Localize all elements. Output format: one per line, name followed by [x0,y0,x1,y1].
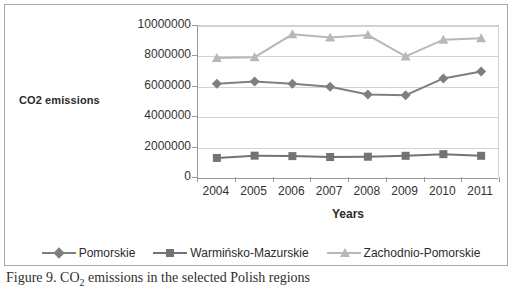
x-axis-ticks: 20042005200620072008200920102011 [197,177,499,207]
legend-swatch-icon [42,247,76,259]
legend-swatch-icon [153,247,187,259]
data-point-marker [402,152,410,160]
data-point-marker [213,154,221,162]
y-tick-mark [192,116,197,117]
data-point-marker [439,150,447,158]
legend-item-0[interactable]: Pomorskie [42,246,136,260]
data-point-marker [476,67,486,77]
series-lines [198,26,500,178]
figure-caption: Figure 9. CO2 emissions in the selected … [6,270,506,288]
chart-frame: CO2 emissions 02000000400000060000008000… [4,4,508,266]
data-point-marker [250,76,260,86]
legend-swatch-icon [327,247,361,259]
x-tick-label: 2007 [316,184,343,198]
y-tick-mark [192,86,197,87]
y-tick-label: 0 [95,169,191,183]
y-tick-mark [192,25,197,26]
series-line [217,34,481,58]
x-tick-mark [386,177,387,182]
legend-item-1[interactable]: Warmińsko-Mazurskie [153,246,308,260]
legend-label: Warmińsko-Mazurskie [190,246,308,260]
y-tick-mark [192,55,197,56]
x-tick-label: 2005 [240,184,267,198]
data-point-marker [438,73,448,83]
data-point-marker [288,152,296,160]
x-tick-mark [461,177,462,182]
data-point-marker [326,153,334,161]
y-tick-label: 6000000 [95,78,191,92]
x-tick-label: 2006 [278,184,305,198]
data-point-marker [364,153,372,161]
x-tick-mark [310,177,311,182]
y-tick-label: 4000000 [95,108,191,122]
caption-rest: emissions in the selected Polish regions [85,270,311,285]
x-tick-mark [197,177,198,182]
x-tick-mark [235,177,236,182]
y-axis-ticks: 0200000040000006000000800000010000000 [91,25,191,177]
x-tick-label: 2009 [391,184,418,198]
figure-container: CO2 emissions 02000000400000060000008000… [0,0,516,290]
x-tick-mark [273,177,274,182]
data-point-marker [251,152,259,160]
y-tick-label: 2000000 [95,139,191,153]
x-axis-title: Years [197,207,499,221]
data-point-marker [477,152,485,160]
y-tick-label: 10000000 [95,17,191,31]
x-tick-mark [424,177,425,182]
x-tick-mark [348,177,349,182]
x-tick-mark [499,177,500,182]
legend-item-2[interactable]: Zachodnio-Pomorskie [327,246,481,260]
data-point-marker [212,79,222,89]
data-point-marker [287,79,297,89]
x-tick-label: 2010 [429,184,456,198]
data-point-marker [401,90,411,100]
caption-prefix: Figure 9. CO [6,270,80,285]
legend-label: Pomorskie [79,246,136,260]
chart-legend: PomorskieWarmińsko-MazurskieZachodnio-Po… [15,241,507,265]
plot-area [197,25,499,177]
x-tick-label: 2004 [203,184,230,198]
y-tick-mark [192,147,197,148]
x-tick-label: 2008 [354,184,381,198]
data-point-marker [363,89,373,99]
y-tick-label: 8000000 [95,47,191,61]
data-point-marker [325,82,335,92]
y-tick-mark [192,177,197,178]
x-tick-label: 2011 [467,184,493,198]
legend-label: Zachodnio-Pomorskie [364,246,481,260]
